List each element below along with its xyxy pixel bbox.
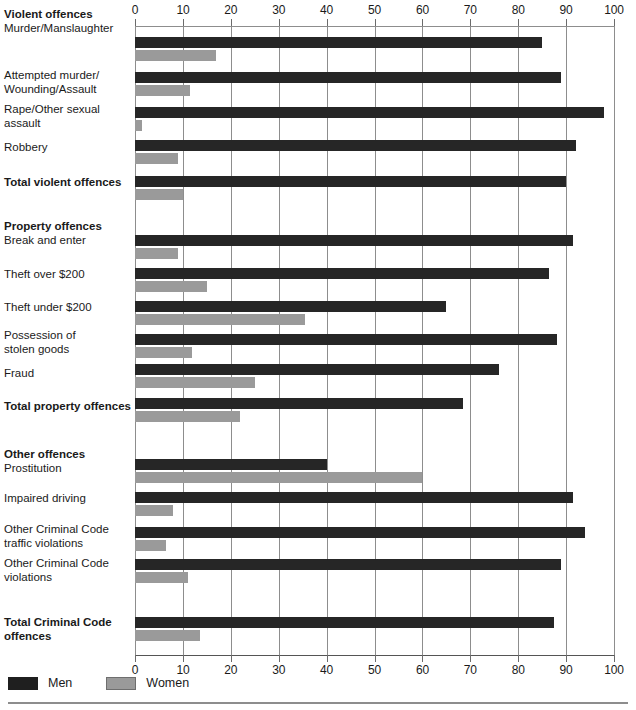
axis-tick <box>135 655 136 662</box>
axis-tick-label: 90 <box>560 663 573 677</box>
category-label-column: Violent offencesMurder/ManslaughterAttem… <box>4 0 132 710</box>
axis-tick <box>470 655 471 662</box>
axis-tick <box>183 655 184 662</box>
axis-tick <box>327 655 328 662</box>
group-heading: Violent offences <box>4 8 132 22</box>
bar-women <box>135 630 200 641</box>
bar-men <box>135 37 542 48</box>
legend-label: Men <box>48 676 72 690</box>
axis-tick-label: 50 <box>368 663 381 677</box>
axis-ticks-top <box>135 19 615 26</box>
category-label: Prostitution <box>4 462 132 476</box>
bar-men <box>135 364 499 375</box>
category-label: Murder/Manslaughter <box>4 22 132 36</box>
category-label: Theft under $200 <box>4 301 132 315</box>
bar-women <box>135 189 183 200</box>
bar-women <box>135 120 142 131</box>
axis-tick <box>375 655 376 662</box>
gridline <box>566 26 567 655</box>
category-label: Possession of stolen goods <box>4 329 132 356</box>
bar-women <box>135 50 216 61</box>
axis-tick <box>279 655 280 662</box>
bar-women <box>135 248 178 259</box>
group-heading: Other offences <box>4 448 132 462</box>
legend-item-women: Women <box>106 676 189 690</box>
category-label: Other Criminal Code violations <box>4 557 132 584</box>
bar-women <box>135 572 188 583</box>
bar-men <box>135 559 561 570</box>
bar-women <box>135 540 166 551</box>
axis-tick <box>614 19 615 26</box>
axis-tick-label: 50 <box>368 3 381 17</box>
axis-tick <box>470 19 471 26</box>
axis-tick-label: 60 <box>416 3 429 17</box>
legend-label: Women <box>146 676 189 690</box>
bar-men <box>135 334 557 345</box>
bar-men <box>135 459 327 470</box>
footer-rule <box>8 702 628 704</box>
axis-tick <box>279 19 280 26</box>
axis-tick-label: 40 <box>320 663 333 677</box>
axis-tick <box>375 19 376 26</box>
legend: MenWomen <box>8 676 223 690</box>
category-label: Total Criminal Code offences <box>4 616 132 643</box>
bar-men <box>135 398 463 409</box>
axis-tick-label: 90 <box>560 3 573 17</box>
category-label: Total property offences <box>4 400 132 414</box>
axis-tick-label: 30 <box>272 3 285 17</box>
axis-tick <box>327 19 328 26</box>
bar-men <box>135 140 576 151</box>
axis-tick-label: 10 <box>176 663 189 677</box>
axis-tick-label: 20 <box>224 663 237 677</box>
bar-women <box>135 85 190 96</box>
axis-tick <box>614 655 615 662</box>
bar-women <box>135 505 173 516</box>
category-label: Rape/Other sexual assault <box>4 103 132 130</box>
bar-men <box>135 617 554 628</box>
axis-tick-label: 80 <box>512 663 525 677</box>
axis-tick <box>518 655 519 662</box>
axis-tick <box>183 19 184 26</box>
axis-tick-label: 100 <box>604 3 623 17</box>
legend-swatch-men-icon <box>8 677 38 690</box>
bar-women <box>135 411 240 422</box>
bar-women <box>135 314 305 325</box>
category-label: Total violent offences <box>4 176 132 190</box>
bar-women <box>135 472 422 483</box>
category-label: Theft over $200 <box>4 268 132 282</box>
category-label: Fraud <box>4 367 132 381</box>
axis-tick <box>231 655 232 662</box>
axis-tick <box>518 19 519 26</box>
axis-tick-label: 10 <box>176 3 189 17</box>
bar-women <box>135 281 207 292</box>
axis-tick <box>566 655 567 662</box>
bar-men <box>135 527 585 538</box>
axis-tick-label: 0 <box>132 3 138 17</box>
axis-tick-label: 60 <box>416 663 429 677</box>
group-heading: Property offences <box>4 220 132 234</box>
axis-tick-label: 80 <box>512 3 525 17</box>
axis-tick <box>566 19 567 26</box>
category-label: Robbery <box>4 141 132 155</box>
axis-tick <box>422 655 423 662</box>
plot-area <box>135 26 614 655</box>
axis-top-line <box>135 26 615 27</box>
bar-men <box>135 492 573 503</box>
axis-tick <box>231 19 232 26</box>
bar-men <box>135 268 549 279</box>
bar-men <box>135 72 561 83</box>
category-label: Attempted murder/ Wounding/Assault <box>4 69 132 96</box>
category-label: Other Criminal Code traffic violations <box>4 523 132 550</box>
bar-women <box>135 347 192 358</box>
axis-tick-label: 30 <box>272 663 285 677</box>
grouped-bar-chart: Violent offencesMurder/ManslaughterAttem… <box>0 0 636 710</box>
legend-swatch-women-icon <box>106 677 136 690</box>
axis-tick-label: 70 <box>464 663 477 677</box>
axis-ticks-bottom <box>135 655 615 662</box>
bar-men <box>135 301 446 312</box>
axis-tick-labels-top: 0102030405060708090100 <box>135 3 615 19</box>
bar-women <box>135 153 178 164</box>
axis-tick-label: 70 <box>464 3 477 17</box>
category-label: Impaired driving <box>4 492 132 506</box>
axis-tick-label: 100 <box>604 663 623 677</box>
